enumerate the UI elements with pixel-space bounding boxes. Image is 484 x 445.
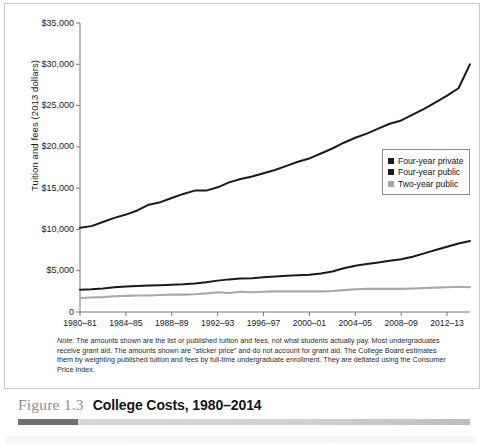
legend-label-two-year-public: Two-year public (398, 179, 458, 189)
legend-swatch-four-year-public (388, 169, 394, 175)
legend-item-two-year-public: Two-year public (388, 179, 463, 189)
y-tick-label: 0 (22, 308, 74, 317)
chart-legend: Four-year private Four-year public Two-y… (382, 149, 470, 195)
legend-label-four-year-public: Four-year public (398, 167, 460, 177)
caption-rule-light (78, 419, 470, 425)
legend-label-four-year-private: Four-year private (398, 156, 463, 166)
page-bottom-strip (6, 436, 476, 443)
x-tick-label: 2012–13 (417, 319, 477, 328)
y-tick-label: $30,000 (22, 60, 74, 69)
legend-swatch-two-year-public (388, 181, 394, 187)
figure-title: College Costs, 1980–2014 (93, 397, 262, 413)
legend-item-four-year-public: Four-year public (388, 167, 463, 177)
y-tick-label: $35,000 (22, 19, 74, 28)
y-tick-label: $15,000 (22, 184, 74, 193)
y-tick-label: $10,000 (22, 225, 74, 234)
figure-caption: Figure 1.3 College Costs, 1980–2014 (4, 396, 480, 425)
caption-rule-dark (18, 419, 78, 425)
chart-note-label: Note: (57, 336, 74, 345)
y-tick-label: $25,000 (22, 101, 74, 110)
caption-rule (4, 419, 480, 425)
y-tick-label: $20,000 (22, 142, 74, 151)
chart-plot-area: Tuition and fees (2013 dollars) 0$5,000$… (0, 0, 484, 330)
chart-note: Note: The amounts shown are the list or … (57, 336, 451, 374)
figure-container: Tuition and fees (2013 dollars) 0$5,000$… (0, 0, 484, 445)
legend-item-four-year-private: Four-year private (388, 156, 463, 166)
figure-number: Figure 1.3 (18, 396, 84, 414)
chart-note-text: The amounts shown are the list or publis… (57, 336, 446, 374)
legend-swatch-four-year-private (388, 158, 394, 164)
y-tick-label: $5,000 (22, 266, 74, 275)
